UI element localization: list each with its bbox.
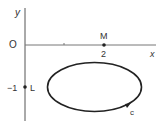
point-m-label: M <box>100 31 108 41</box>
coordinate-diagram: y O x M 2 L −1 c <box>0 0 159 124</box>
x-axis-label: x <box>149 49 155 59</box>
point-m <box>102 43 106 47</box>
point-m-value: 2 <box>101 49 106 59</box>
point-l <box>23 85 27 89</box>
curve-c-label: c <box>130 108 134 117</box>
y-axis-label: y <box>14 7 21 18</box>
point-l-label: L <box>30 83 35 93</box>
origin-label: O <box>9 39 17 50</box>
point-l-value: −1 <box>7 83 17 93</box>
